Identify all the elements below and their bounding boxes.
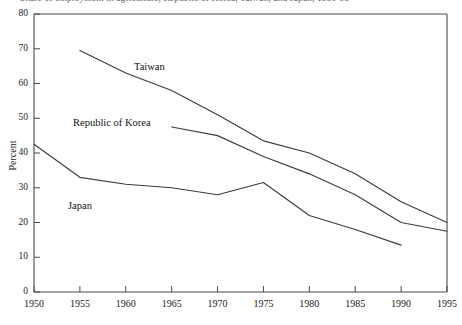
y-tick-label-60: 60: [0, 78, 28, 88]
y-tick-label-40: 40: [0, 147, 28, 157]
series-lines: [34, 50, 447, 245]
y-tick-label-50: 50: [0, 112, 28, 122]
series-label-republic-of-korea: Republic of Korea: [73, 117, 151, 128]
y-tick-label-10: 10: [0, 251, 28, 261]
x-tick-label-1965: 1965: [147, 298, 197, 309]
series-line-japan: [34, 144, 401, 245]
x-tick-label-1985: 1985: [330, 298, 380, 309]
x-tick-label-1970: 1970: [193, 298, 243, 309]
series-line-taiwan: [80, 50, 447, 222]
x-tick-label-1960: 1960: [101, 298, 151, 309]
y-tick-label-20: 20: [0, 217, 28, 227]
series-label-japan: Japan: [68, 200, 92, 211]
x-tick-label-1995: 1995: [422, 298, 462, 309]
series-label-taiwan: Taiwan: [134, 61, 165, 72]
y-tick-label-30: 30: [0, 182, 28, 192]
axes-group: [34, 14, 447, 292]
x-tick-label-1950: 1950: [9, 298, 59, 309]
y-tick-label-70: 70: [0, 43, 28, 53]
y-tick-label-0: 0: [0, 286, 28, 296]
x-tick-label-1975: 1975: [238, 298, 288, 309]
y-tick-label-80: 80: [0, 8, 28, 18]
x-tick-marks: [34, 286, 447, 292]
x-tick-label-1990: 1990: [376, 298, 426, 309]
y-tick-marks: [34, 14, 40, 292]
x-tick-label-1955: 1955: [55, 298, 105, 309]
x-tick-label-1980: 1980: [284, 298, 334, 309]
